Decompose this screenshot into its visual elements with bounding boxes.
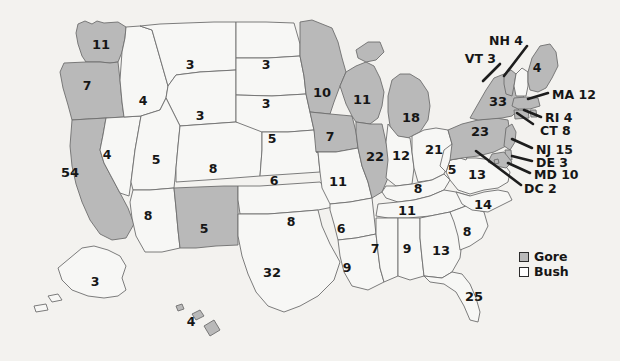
callout-label-CT: CT 8 <box>540 125 571 138</box>
ev-label-AK: 3 <box>91 276 100 289</box>
leader-line-DE <box>512 156 532 161</box>
ev-label-SD: 3 <box>262 98 271 111</box>
state-AZ <box>130 188 180 252</box>
ev-label-OK: 8 <box>287 216 296 229</box>
callout-label-MD: MD 10 <box>534 169 579 182</box>
legend-bush-label: Bush <box>534 264 569 279</box>
ev-label-MI: 18 <box>402 111 420 124</box>
ev-label-PA: 23 <box>471 125 489 138</box>
ev-label-AR: 6 <box>337 223 346 236</box>
callout-label-MA: MA 12 <box>552 89 596 102</box>
ev-label-IN: 12 <box>392 149 410 162</box>
state-NM <box>174 186 238 248</box>
ev-label-NY: 33 <box>489 95 507 108</box>
ev-label-FL: 25 <box>465 290 483 303</box>
ev-label-KS: 6 <box>270 175 279 188</box>
ev-label-WI: 11 <box>353 93 371 106</box>
ev-label-WA: 11 <box>92 38 110 51</box>
ev-label-SD2: 5 <box>268 133 277 146</box>
ev-label-HI: 4 <box>187 316 196 329</box>
state-MA <box>512 97 540 109</box>
callout-label-DC: DC 2 <box>524 183 557 196</box>
ev-label-SC: 8 <box>463 226 472 239</box>
ev-label-WV: 5 <box>448 164 457 177</box>
legend-bush: Bush <box>519 264 569 279</box>
legend-gore-label: Gore <box>534 249 568 264</box>
leader-line-NJ <box>512 139 532 148</box>
ev-label-ND: 3 <box>262 59 271 72</box>
ev-label-MN: 10 <box>313 86 331 99</box>
state-NE <box>236 94 314 132</box>
ev-label-AZ: 8 <box>144 210 153 223</box>
state-NJ <box>504 124 516 150</box>
state-DC <box>494 159 499 164</box>
ev-label-NV: 4 <box>103 149 112 162</box>
ev-label-NC: 14 <box>474 198 492 211</box>
legend-gore: Gore <box>519 249 569 264</box>
ev-label-OH: 21 <box>425 143 443 156</box>
ev-label-TN: 11 <box>398 204 416 217</box>
ev-label-MS: 7 <box>371 243 380 256</box>
ev-label-GA: 13 <box>432 244 450 257</box>
callout-label-VT: VT 3 <box>465 53 496 66</box>
map-legend: Gore Bush <box>519 249 569 279</box>
ev-label-IA: 7 <box>326 131 335 144</box>
ev-label-OR: 7 <box>83 80 92 93</box>
ev-label-ID: 4 <box>139 95 148 108</box>
ev-label-NM: 5 <box>200 223 209 236</box>
ev-label-TX: 32 <box>263 266 281 279</box>
state-AK <box>34 246 126 312</box>
ev-label-WY: 3 <box>196 110 205 123</box>
ev-label-MT: 3 <box>186 59 195 72</box>
ev-label-VA: 13 <box>468 168 486 181</box>
ev-label-CO: 8 <box>209 163 218 176</box>
state-NH <box>514 68 528 96</box>
state-CO <box>176 122 262 182</box>
ev-label-LA: 9 <box>343 262 352 275</box>
ev-label-KY: 8 <box>414 183 423 196</box>
callout-label-NH: NH 4 <box>489 35 523 48</box>
leader-line-MD <box>508 163 530 173</box>
legend-bush-swatch <box>519 267 529 277</box>
state-OR <box>60 62 124 120</box>
ev-label-CA: 54 <box>61 166 79 179</box>
ev-label-UT: 5 <box>152 154 161 167</box>
legend-gore-swatch <box>519 252 529 262</box>
ev-label-MO: 11 <box>329 175 347 188</box>
state-ND <box>236 22 300 58</box>
state-HI <box>176 304 220 336</box>
state-MN <box>300 20 346 114</box>
ev-label-AL: 9 <box>403 243 412 256</box>
ev-label-IL: 22 <box>366 150 384 163</box>
ev-label-ME: 4 <box>533 62 542 75</box>
electoral-map-figure: 1175444335858335683210711691122181221811… <box>0 0 620 361</box>
state-SD <box>236 56 306 96</box>
